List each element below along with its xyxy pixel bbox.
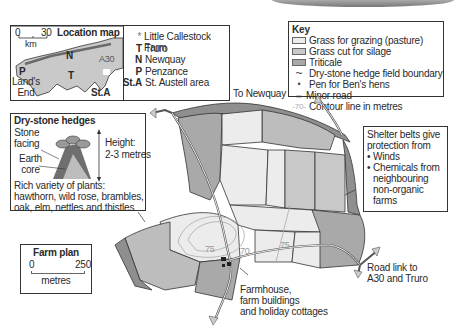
key-item-silage: Grass cut for silage [292,46,443,57]
star-icon: * [128,31,141,43]
farm-scale-end: 250 [75,259,91,270]
height-label: Height: [105,137,135,148]
key-item-contour: -70-Contour line in metres [292,101,443,112]
shelter-intro: Shelter belts give protection from [367,129,444,151]
contour-label-70: 70 [240,246,250,256]
road-link-label: Road link to A30 and Truro [367,262,428,284]
scale-unit: km [25,39,37,49]
silage-swatch [292,48,306,55]
farm-scale-unit: metres [21,275,91,286]
map-label-lands-end: Land's End [12,76,40,98]
key-item-hens: •Pen for Ben's hens [292,79,443,90]
key-item-hedge: ~Dry-stone hedge field boundary [292,68,443,79]
scale-start: 0 [15,27,20,38]
farm-scale-bar [31,271,85,274]
key-item-road: ⇔Minor road [292,90,443,101]
scale-end: 30 [41,27,52,38]
shelter-bullet-chemicals: •Chemicals from neighbouring non-organic… [367,162,444,206]
height-value: 2-3 metres [105,149,151,160]
plants-text: Rich variety of plants: hawthorn, wild r… [14,180,144,213]
minor-road-icon: ⇔ [292,90,306,101]
triticale-swatch [292,59,306,66]
map-label-t: T [68,70,74,81]
contour-label-75-west: 75 [205,244,215,254]
legend-newquay: NNewquay [128,54,230,66]
contour-line-icon: -70- [292,101,306,112]
farm-plan-box: Farm plan 0 250 metres [20,244,92,294]
shelter-bullet-winds: •Winds [367,151,444,162]
key-title: Key [292,24,443,35]
contour-label-75-east: 75 [280,240,290,250]
map-label-n: N [66,50,73,61]
hedge-line-icon: ~ [292,68,306,79]
map-label-sta: St.A [91,87,110,98]
hedges-box: Dry-stone hedges Stone facing Earth core… [10,113,146,211]
legend-st-austell: St.ASt. Austell area [122,77,230,89]
header-band [272,0,454,7]
location-legend: *Little Callestock Farm TTruro NNewquay … [123,26,230,100]
farm-scale-start: 0 [29,259,34,270]
key-item-triticale: Triticale [292,57,443,68]
farm-plan-title: Farm plan [21,247,91,258]
to-newquay-label: To Newquay [233,88,286,99]
key-item-pasture: Grass for grazing (pasture) [292,35,443,46]
legend-farm: *Little Callestock Farm [128,31,230,43]
legend-penzance: PPenzance [128,66,230,78]
farmhouse-label: Farmhouse, farm buildings and holiday co… [240,284,328,317]
key-box: Key Grass for grazing (pasture) Grass cu… [288,21,444,97]
shelter-box: Shelter belts give protection from •Wind… [363,126,448,212]
location-map-title: Location map [57,27,120,38]
map-label-a30: A30 [99,54,114,64]
pasture-swatch [292,37,306,44]
location-map-box: 0 30 km Location map N A30 P T St.A Land… [10,25,230,101]
